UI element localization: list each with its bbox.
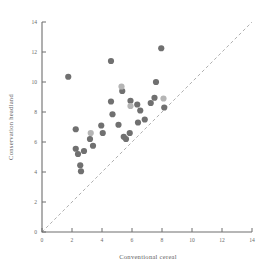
y-tick-label: 8 — [34, 109, 37, 115]
data-point — [73, 126, 79, 132]
y-tick-label: 12 — [31, 49, 37, 55]
x-tick-label: 12 — [219, 237, 225, 243]
x-tick-label: 8 — [161, 237, 164, 243]
x-axis-ticks: 02468101214 — [41, 228, 255, 243]
data-point — [160, 95, 166, 101]
y-tick-label: 2 — [34, 199, 37, 205]
data-point — [142, 116, 148, 122]
x-tick-label: 2 — [71, 237, 74, 243]
y-axis-ticks: 02468101214 — [31, 19, 46, 235]
data-point — [98, 122, 104, 128]
data-point — [90, 143, 96, 149]
y-tick-label: 10 — [31, 79, 37, 85]
data-points-layer — [65, 45, 167, 174]
data-point — [115, 122, 121, 128]
x-tick-label: 14 — [249, 237, 255, 243]
data-point — [158, 45, 164, 51]
one-to-one-reference-line — [42, 22, 252, 232]
x-tick-label: 4 — [101, 237, 104, 243]
data-point — [108, 58, 114, 64]
y-tick-label: 4 — [34, 169, 37, 175]
data-point — [153, 79, 159, 85]
data-point — [78, 168, 84, 174]
data-point — [135, 119, 141, 125]
data-point — [151, 95, 157, 101]
y-tick-label: 14 — [31, 19, 37, 25]
scatter-plot-figure: 02468101214 02468101214 Conventional cer… — [0, 0, 261, 268]
data-point — [134, 101, 140, 107]
reference-line-group — [42, 22, 252, 232]
data-point — [137, 107, 143, 113]
data-point — [148, 100, 154, 106]
x-axis-title: Conventional cereal — [119, 253, 177, 260]
data-point — [75, 151, 81, 157]
data-point — [65, 74, 71, 80]
scatter-plot-svg: 02468101214 02468101214 Conventional cer… — [0, 0, 261, 268]
x-tick-label: 10 — [189, 237, 195, 243]
data-point — [118, 83, 124, 89]
data-point — [87, 136, 93, 142]
data-point — [161, 104, 167, 110]
data-point — [127, 103, 133, 109]
axes-group: 02468101214 02468101214 — [31, 19, 255, 243]
data-point — [123, 136, 129, 142]
data-point — [88, 130, 94, 136]
data-point — [81, 148, 87, 154]
x-tick-label: 6 — [131, 237, 134, 243]
data-point — [127, 130, 133, 136]
y-tick-label: 6 — [34, 139, 37, 145]
x-tick-label: 0 — [41, 237, 44, 243]
data-point — [109, 111, 115, 117]
y-tick-label: 0 — [34, 229, 37, 235]
data-point — [77, 162, 83, 168]
y-axis-title: Conservation headland — [7, 94, 14, 160]
data-point — [100, 130, 106, 136]
data-point — [108, 98, 114, 104]
